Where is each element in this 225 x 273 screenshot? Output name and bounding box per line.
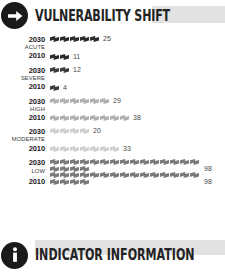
icon-row-moderate-2030: 20 xyxy=(50,128,222,134)
row-year-label: 2030 xyxy=(29,67,45,75)
pictogram-icon xyxy=(190,159,199,165)
row-value: 98 xyxy=(204,179,212,185)
pictogram-icon xyxy=(50,98,59,104)
pictogram-icon xyxy=(50,115,59,121)
tier-moderate-labels: 2030 MODERATE 2010 xyxy=(0,128,46,152)
pictogram-group xyxy=(50,159,200,172)
pictogram-icon xyxy=(140,172,149,178)
pictogram-icon xyxy=(60,36,69,42)
pictogram-icon xyxy=(150,159,159,165)
tier-severe-labels: 2030 SEVERE 2010 xyxy=(0,67,46,91)
pictogram-icon xyxy=(80,115,89,121)
pictogram-icon xyxy=(60,159,69,165)
row-year-label: 2010 xyxy=(29,178,45,186)
pictogram-icon xyxy=(130,159,139,165)
pictogram-icon xyxy=(160,159,169,165)
pictogram-icon xyxy=(70,179,79,185)
tier-acute-labels: 2030 ACUTE 2010 xyxy=(0,36,46,60)
row-year-label: 2010 xyxy=(29,114,45,122)
pictogram-icon xyxy=(180,159,189,165)
pictogram-icon xyxy=(170,159,179,165)
pictogram-icon xyxy=(80,36,89,42)
pictogram-icon xyxy=(70,98,79,104)
header: VULNERABILITY SHIFT xyxy=(0,0,225,31)
icon-row-severe-2010: 4 xyxy=(50,85,222,91)
icon-row-severe-2030: 12 xyxy=(50,67,222,73)
pictogram-icon xyxy=(100,115,109,121)
tier-low: 2030 LOW 2010 98 98 xyxy=(0,159,225,185)
pictogram-icon xyxy=(80,98,89,104)
tier-acute: 2030 ACUTE 2010 25 11 xyxy=(0,36,225,60)
tier-acute-name: ACUTE xyxy=(25,45,45,51)
pictogram-icon xyxy=(70,128,79,134)
arrow-right-circle-icon[interactable] xyxy=(1,2,28,29)
pictogram-icon xyxy=(60,128,69,134)
pictogram-group xyxy=(50,98,109,104)
tier-high: 2030 HIGH 2010 29 38 xyxy=(0,98,225,122)
row-value: 11 xyxy=(73,54,80,60)
pictogram-icon xyxy=(50,36,59,42)
footer-title: INDICATOR INFORMATION xyxy=(35,246,195,264)
pictogram-group xyxy=(50,36,99,42)
tier-moderate: 2030 MODERATE 2010 20 33 xyxy=(0,128,225,152)
tier-high-labels: 2030 HIGH 2010 xyxy=(0,98,46,122)
pictogram-icon xyxy=(50,146,59,152)
pictogram-icon xyxy=(70,159,79,165)
pictogram-icon xyxy=(70,172,79,178)
pictogram-icon xyxy=(90,115,99,121)
pictogram-icon xyxy=(80,159,89,165)
footer: INDICATOR INFORMATION xyxy=(0,237,225,273)
pictogram-icon xyxy=(60,179,69,185)
row-year-label: 2030 xyxy=(29,159,45,167)
row-value: 12 xyxy=(73,67,81,73)
tier-low-labels: 2030 LOW 2010 xyxy=(0,159,46,185)
pictogram-icon xyxy=(50,159,59,165)
pictogram-icon xyxy=(60,98,69,104)
icon-row-high-2010: 38 xyxy=(50,115,222,121)
pictogram-icon xyxy=(80,146,89,152)
pictogram-icon xyxy=(70,36,79,42)
pictogram-icon xyxy=(50,172,59,178)
icon-row-acute-2030: 25 xyxy=(50,36,222,42)
pictogram-icon xyxy=(110,115,119,121)
row-value: 25 xyxy=(103,36,111,42)
pictogram-icon xyxy=(90,146,99,152)
vulnerability-shift-chart: 2030 ACUTE 2010 25 11 2030 SEVERE xyxy=(0,31,225,185)
pictogram-group xyxy=(50,172,200,185)
pictogram-icon xyxy=(100,172,109,178)
pictogram-icon xyxy=(140,159,149,165)
pictogram-icon xyxy=(50,179,59,185)
row-value: 20 xyxy=(93,128,101,134)
pictogram-icon xyxy=(80,179,89,185)
pictogram-icon xyxy=(50,128,59,134)
pictogram-icon xyxy=(110,146,119,152)
pictogram-icon xyxy=(60,67,69,73)
pictogram-icon xyxy=(60,172,69,178)
pictogram-icon xyxy=(90,36,99,42)
pictogram-icon xyxy=(70,146,79,152)
pictogram-icon xyxy=(100,98,109,104)
row-value: 4 xyxy=(63,85,67,91)
pictogram-icon xyxy=(130,172,139,178)
pictogram-icon xyxy=(90,172,99,178)
row-year-label: 2010 xyxy=(29,145,45,153)
icon-row-high-2030: 29 xyxy=(50,98,222,104)
row-year-label: 2030 xyxy=(29,128,45,136)
pictogram-icon xyxy=(80,172,89,178)
pictogram-icon xyxy=(160,172,169,178)
pictogram-icon xyxy=(170,172,179,178)
icon-row-low-2030: 98 xyxy=(50,159,222,172)
pictogram-icon xyxy=(50,67,59,73)
pictogram-icon xyxy=(60,115,69,121)
pictogram-icon xyxy=(100,146,109,152)
info-circle-icon[interactable] xyxy=(1,242,28,269)
pictogram-icon xyxy=(190,172,199,178)
row-value: 38 xyxy=(133,115,141,121)
row-year-label: 2010 xyxy=(29,52,45,60)
pictogram-icon xyxy=(120,172,129,178)
pictogram-group xyxy=(50,85,59,91)
pictogram-icon xyxy=(50,54,59,60)
pictogram-icon xyxy=(110,172,119,178)
pictogram-icon xyxy=(80,128,89,134)
pictogram-group xyxy=(50,115,129,121)
